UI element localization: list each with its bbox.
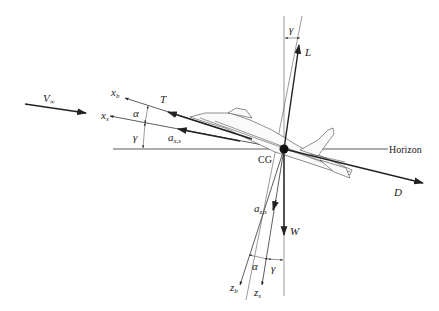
alpha-upper-label: α: [133, 107, 139, 119]
freestream-arrow: [25, 104, 86, 113]
gamma-angle-marker-lower: [268, 259, 283, 260]
aircraft-force-diagram: V∞ xb xs T α γ ax,s γ L CG Horizon D az,…: [0, 0, 439, 311]
lift-label: L: [304, 46, 311, 58]
body-x-axis-label: xb: [110, 86, 120, 100]
thrust-label: T: [160, 93, 167, 105]
gamma-top-label: γ: [289, 23, 294, 35]
horizon-label: Horizon: [389, 144, 422, 155]
aircraft-silhouette: [190, 108, 352, 178]
freestream-label: V∞: [43, 92, 55, 106]
body-z-axis-label: zb: [229, 281, 238, 295]
accel-x-label: ax,s: [168, 131, 181, 145]
alpha-lower-label: α: [252, 260, 258, 272]
weight-label: W: [290, 225, 300, 237]
alpha-angle-marker-upper: [145, 106, 148, 123]
cg-dot: [280, 145, 289, 154]
drag-label: D: [393, 186, 402, 198]
stability-x-axis-label: xs: [100, 109, 109, 123]
alpha-angle-marker-lower: [249, 255, 268, 259]
gamma-upper-label: γ: [133, 131, 138, 143]
body-z-axis: [240, 149, 284, 285]
cg-label: CG: [258, 154, 272, 165]
gamma-lower-label: γ: [271, 262, 276, 274]
gamma-angle-marker-upper: [143, 123, 145, 148]
stability-z-axis-label: zs: [253, 286, 261, 300]
